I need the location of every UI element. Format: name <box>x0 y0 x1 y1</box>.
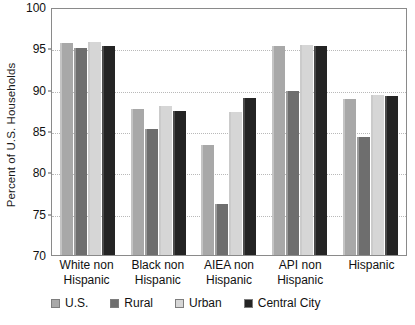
legend-label: U.S. <box>65 296 88 310</box>
legend-item[interactable]: Rural <box>110 296 153 310</box>
bar <box>145 129 158 255</box>
legend-swatch-icon <box>175 299 184 308</box>
legend-item[interactable]: U.S. <box>51 296 88 310</box>
y-axis-tick-label: 90 <box>33 84 46 98</box>
bar <box>215 204 228 255</box>
legend-label: Central City <box>258 296 321 310</box>
bar <box>243 98 256 255</box>
bar <box>385 96 398 255</box>
bar-group <box>194 9 265 255</box>
bar-group <box>264 9 335 255</box>
bar <box>60 43 73 255</box>
y-axis-tick-label: 70 <box>33 249 46 263</box>
category-label-line2: Hispanic <box>265 273 336 288</box>
bar <box>159 106 172 255</box>
category-label-line2: Hispanic <box>51 273 122 288</box>
legend-item[interactable]: Urban <box>175 296 222 310</box>
x-axis-category-label: AIEA nonHispanic <box>193 258 264 287</box>
y-axis-tick-label: 75 <box>33 208 46 222</box>
x-axis-category-label: Black nonHispanic <box>122 258 193 287</box>
category-label-line2: Hispanic <box>193 273 264 288</box>
bar <box>272 46 285 255</box>
bar <box>201 145 214 255</box>
y-axis-tick-labels: 100959085807570 <box>20 8 50 256</box>
legend-item[interactable]: Central City <box>244 296 321 310</box>
category-label-line1: White non <box>60 258 114 272</box>
y-axis-tick-label: 85 <box>33 125 46 139</box>
legend-label: Rural <box>124 296 153 310</box>
bar-groups <box>52 9 406 255</box>
bar <box>286 91 299 255</box>
y-axis-tick-label: 100 <box>26 1 46 15</box>
legend-swatch-icon <box>51 299 60 308</box>
y-axis-title: Percent of U.S. Households <box>0 0 22 270</box>
bar-group <box>123 9 194 255</box>
y-axis-tick-label: 95 <box>33 42 46 56</box>
chart-legend: U.S.RuralUrbanCentral City <box>51 296 391 310</box>
bar <box>300 45 313 255</box>
category-label-line1: AIEA non <box>204 258 254 272</box>
legend-swatch-icon <box>244 299 253 308</box>
bar-group <box>335 9 406 255</box>
bar <box>343 99 356 255</box>
bar <box>131 109 144 255</box>
category-label-line1: Black non <box>131 258 184 272</box>
legend-label: Urban <box>189 296 222 310</box>
bar <box>371 95 384 255</box>
plot-area <box>51 8 407 256</box>
bar <box>173 111 186 255</box>
y-axis-tick-label: 80 <box>33 166 46 180</box>
x-axis-category-label: API nonHispanic <box>265 258 336 287</box>
category-label-line2: Hispanic <box>122 273 193 288</box>
bar-group <box>52 9 123 255</box>
chart-figure: Percent of U.S. Households 1009590858075… <box>0 0 415 325</box>
y-axis-title-text: Percent of U.S. Households <box>5 63 17 208</box>
x-axis-category-label: White nonHispanic <box>51 258 122 287</box>
bar <box>314 46 327 255</box>
bar <box>74 48 87 255</box>
bar <box>229 112 242 255</box>
bar <box>88 42 101 255</box>
legend-swatch-icon <box>110 299 119 308</box>
x-axis-category-labels: White nonHispanicBlack nonHispanicAIEA n… <box>51 258 407 287</box>
bar <box>357 137 370 255</box>
category-label-line1: Hispanic <box>348 258 394 272</box>
x-axis-category-label: Hispanic <box>336 258 407 287</box>
bar <box>102 46 115 255</box>
category-label-line1: API non <box>279 258 322 272</box>
